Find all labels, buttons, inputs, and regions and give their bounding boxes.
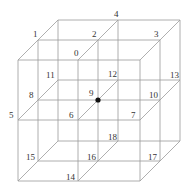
node-label-16: 16 (87, 152, 97, 162)
node-label-14: 14 (66, 172, 76, 182)
center-node-dot (95, 97, 100, 102)
lattice-cube-diagram: 0123456789101112131415161718 (0, 0, 191, 192)
node-label-6: 6 (69, 110, 74, 120)
node-label-8: 8 (29, 90, 34, 100)
node-labels: 0123456789101112131415161718 (9, 9, 180, 182)
node-label-1: 1 (33, 29, 38, 39)
node-label-12: 12 (108, 69, 117, 79)
node-label-2: 2 (92, 29, 97, 39)
node-label-10: 10 (149, 90, 159, 100)
node-label-15: 15 (26, 152, 36, 162)
node-label-5: 5 (9, 110, 14, 120)
node-label-7: 7 (131, 110, 136, 120)
node-label-9: 9 (89, 88, 94, 98)
node-label-17: 17 (148, 152, 158, 162)
node-label-3: 3 (154, 29, 159, 39)
node-label-11: 11 (46, 70, 55, 80)
node-label-13: 13 (170, 70, 180, 80)
node-label-18: 18 (108, 132, 118, 142)
node-label-0: 0 (74, 48, 79, 58)
node-label-4: 4 (114, 9, 119, 19)
